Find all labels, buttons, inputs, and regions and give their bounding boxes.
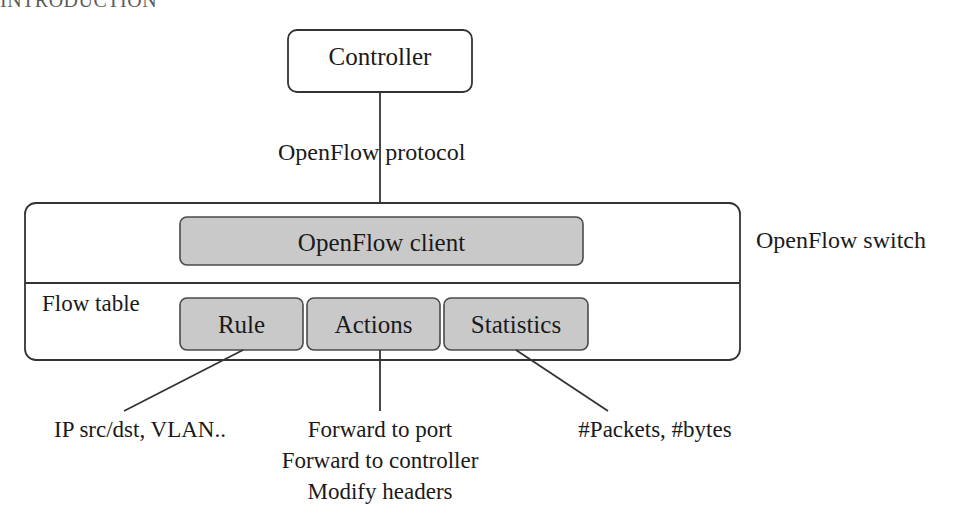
annotation-statistics-line-1: #Packets, #bytes — [530, 414, 780, 445]
annotation-actions-line-2: Forward to controller — [250, 445, 510, 476]
openflow-client-label: OpenFlow client — [180, 230, 583, 255]
openflow-protocol-label: OpenFlow protocol — [278, 140, 465, 164]
annotation-statistics: #Packets, #bytes — [530, 414, 780, 445]
flow-table-column-label-statistics: Statistics — [444, 312, 588, 337]
flow-table-label: Flow table — [42, 292, 140, 315]
flow-table-column-label-rule: Rule — [180, 312, 303, 337]
annotation-rule-line-1: IP src/dst, VLAN.. — [20, 414, 260, 445]
openflow-switch-label: OpenFlow switch — [756, 228, 926, 252]
flow-table-column-label-actions: Actions — [307, 312, 440, 337]
openflow-switch-diagram: INTRODUCTION Controller OpenFlow protoco… — [0, 0, 964, 528]
annotation-actions-line-1: Forward to port — [250, 414, 510, 445]
annotation-actions-line-3: Modify headers — [250, 476, 510, 507]
running-head: INTRODUCTION — [0, 0, 157, 10]
annotation-rule: IP src/dst, VLAN.. — [20, 414, 260, 445]
annotation-actions: Forward to port Forward to controller Mo… — [250, 414, 510, 507]
controller-label: Controller — [288, 44, 472, 69]
